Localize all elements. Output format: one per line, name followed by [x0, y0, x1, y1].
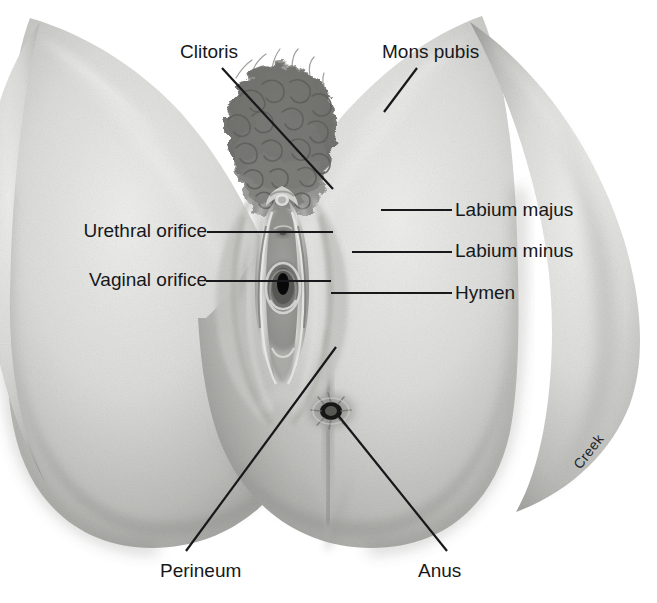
label-anus[interactable]: Anus: [418, 561, 461, 580]
label-labium-minus[interactable]: Labium minus: [455, 241, 573, 260]
label-perineum[interactable]: Perineum: [160, 561, 241, 580]
anatomy-diagram-figure: ClitorisMons pubisLabium majusLabium min…: [0, 0, 657, 603]
label-mons-pubis[interactable]: Mons pubis: [382, 42, 479, 61]
illustration-canvas: [0, 0, 657, 603]
label-clitoris[interactable]: Clitoris: [180, 42, 238, 61]
label-vaginal-orifice[interactable]: Vaginal orifice: [0, 270, 207, 289]
label-hymen[interactable]: Hymen: [455, 283, 515, 302]
label-labium-majus[interactable]: Labium majus: [455, 200, 573, 219]
label-urethral-orifice[interactable]: Urethral orifice: [0, 221, 207, 240]
anus-region: [305, 392, 357, 430]
